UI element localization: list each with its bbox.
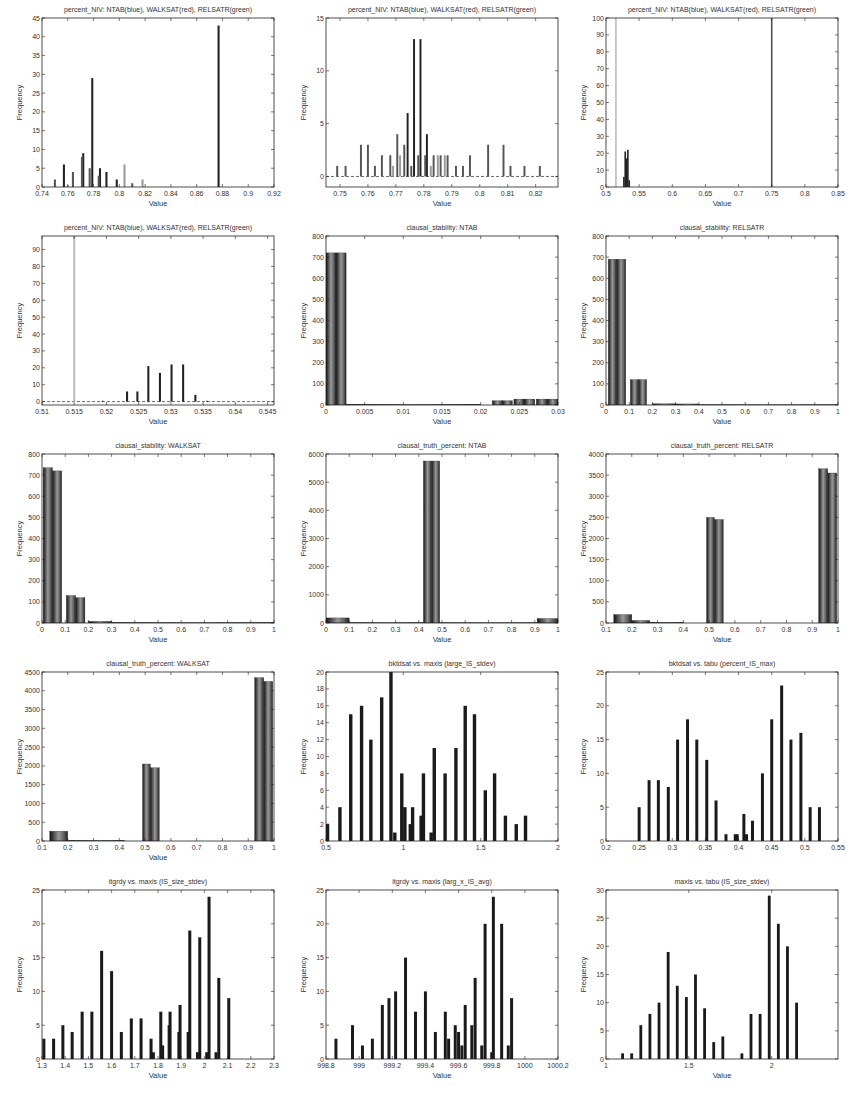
x-tick-label: 0.5: [704, 626, 714, 633]
x-tick-label: 0.82: [138, 190, 152, 197]
x-tick-label: 0.7: [756, 626, 766, 633]
histogram-bar: [90, 1012, 93, 1059]
x-tick-label: 1.6: [107, 1062, 117, 1069]
chart-title: clausal_stability: NTAB: [406, 224, 477, 232]
x-tick-label: 0.7: [764, 408, 774, 415]
histogram-bar: [98, 176, 100, 187]
histogram-bar: [658, 1003, 661, 1059]
histogram-bar: [110, 971, 113, 1059]
y-tick-label: 800: [592, 233, 604, 240]
x-axis-label: Value: [149, 635, 168, 644]
histogram-bar: [639, 1025, 642, 1059]
x-tick-label: 0.53: [164, 408, 178, 415]
y-tick-label: 14: [316, 719, 324, 726]
x-tick-label: 0.82: [529, 190, 543, 197]
histogram-bar: [400, 773, 403, 841]
histogram-bar: [404, 958, 407, 1059]
histogram-bar: [194, 395, 196, 402]
histogram-chart: clausal_stability: WALKSAT01002003004005…: [12, 436, 282, 651]
y-tick-label: 15: [32, 127, 40, 134]
histogram-bar: [218, 26, 220, 187]
y-tick-label: 20: [596, 702, 604, 709]
x-tick-label: 0.7: [484, 626, 494, 633]
bars-group: [42, 897, 230, 1059]
histogram-bar: [52, 1039, 55, 1059]
histogram-bar: [81, 1012, 84, 1059]
x-tick-label: 0.2: [368, 626, 378, 633]
bars-group: [43, 468, 274, 623]
x-tick-label: 0.78: [87, 190, 101, 197]
x-tick-label: 0.545: [259, 408, 277, 415]
histogram-bar: [136, 391, 138, 401]
x-tick-label: 2: [770, 1062, 774, 1069]
plot-frame: [42, 890, 274, 1059]
histogram-bar: [433, 748, 436, 841]
histogram-bar: [429, 833, 432, 841]
y-tick-label: 20: [316, 920, 324, 927]
y-tick-label: 4000: [308, 507, 324, 514]
histogram-bar: [91, 78, 93, 187]
x-tick-label: 1.9: [176, 1062, 186, 1069]
x-tick-label: 0.1: [601, 626, 611, 633]
x-tick-label: 999.6: [450, 1062, 468, 1069]
histogram-bar: [409, 824, 412, 841]
x-tick-label: 0.5: [800, 844, 810, 851]
y-tick-label: 90: [596, 31, 604, 38]
histogram-bar: [510, 998, 513, 1059]
histogram-bar: [326, 618, 349, 623]
chart-title: clausal_stability: WALKSAT: [115, 442, 201, 450]
y-tick-label: 30: [596, 887, 604, 894]
histogram-bar: [168, 1025, 171, 1059]
x-tick-label: 0.1: [37, 844, 47, 851]
x-tick-label: 0.01: [397, 408, 411, 415]
chart-panel: clausal_truth_percent: WALKSAT0500100015…: [12, 654, 282, 869]
histogram-bar: [455, 166, 457, 177]
y-tick-label: 10: [316, 67, 324, 74]
histogram-grid: percent_NIV: NTAB(blue), WALKSAT(red), R…: [0, 0, 867, 1094]
x-tick-label: 0.65: [699, 190, 713, 197]
y-axis-label: Frequency: [579, 85, 588, 121]
y-tick-label: 70: [596, 65, 604, 72]
y-tick-label: 5: [320, 120, 324, 127]
histogram-bar: [630, 380, 638, 405]
x-tick-label: 0.6: [176, 626, 186, 633]
y-tick-label: 20: [32, 364, 40, 371]
y-tick-label: 5000: [308, 479, 324, 486]
x-tick-label: 2.1: [223, 1062, 233, 1069]
x-tick-label: 0.005: [356, 408, 374, 415]
histogram-bar: [73, 233, 75, 402]
histogram-bar: [667, 952, 670, 1059]
x-tick-label: 0.85: [831, 190, 845, 197]
chart-title: clausal_truth_percent: RELSATR: [671, 442, 774, 450]
x-tick-label: 2.3: [269, 1062, 279, 1069]
histogram-bar: [434, 1032, 437, 1059]
x-tick-label: 1.5: [84, 1062, 94, 1069]
chart-panel: maxis vs. tabu (IS_size_stdev)0510152025…: [576, 872, 846, 1087]
y-tick-label: 20: [596, 150, 604, 157]
histogram-bar: [469, 155, 471, 176]
histogram-bar: [721, 1036, 724, 1059]
x-tick-label: 999: [353, 1062, 365, 1069]
y-tick-label: 2500: [588, 514, 604, 521]
histogram-bar: [771, 18, 773, 187]
histogram-bar: [208, 897, 211, 1059]
x-axis-label: Value: [713, 635, 732, 644]
x-tick-label: 0.7: [200, 626, 210, 633]
histogram-bar: [196, 1052, 199, 1059]
chart-panel: percent_NIV: NTAB(blue), WALKSAT(red), R…: [296, 0, 566, 215]
x-tick-label: 0.75: [333, 190, 347, 197]
histogram-bar: [393, 833, 396, 841]
histogram-bar: [255, 678, 264, 841]
histogram-bar: [71, 1032, 74, 1059]
histogram-bar: [426, 134, 428, 176]
x-tick-label: 0.4: [734, 844, 744, 851]
y-tick-label: 3500: [24, 706, 40, 713]
histogram-bar: [500, 924, 503, 1059]
bars-group: [621, 896, 798, 1059]
histogram-bar: [389, 672, 392, 841]
y-tick-label: 80: [596, 48, 604, 55]
histogram-chart: clausal_truth_percent: NTAB0100020003000…: [296, 436, 566, 651]
bars-group: [326, 253, 558, 405]
histogram-bar: [419, 39, 421, 176]
x-tick-label: 0.25: [632, 844, 646, 851]
